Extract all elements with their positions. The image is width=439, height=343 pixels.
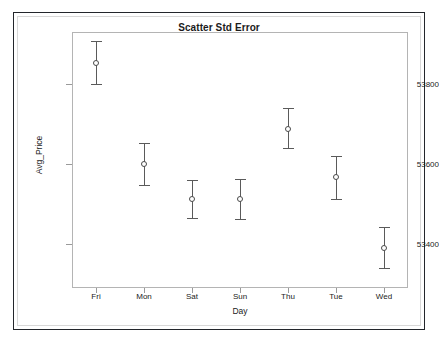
errorbar-cap-lower [187,218,198,219]
errorbar-cap-lower [235,219,246,220]
x-axis-title: Day [72,306,408,316]
errorbar-cap-lower [283,148,294,149]
y-tick-label: 53800 [417,80,439,89]
errorbar-cap-upper [187,180,198,181]
errorbar-cap-upper [331,156,342,157]
y-tick-label: 53600 [417,160,439,169]
x-tick-label: Sun [233,292,247,301]
x-tick-label: Thu [281,292,295,301]
errorbar-cap-upper [235,179,246,180]
y-tick-mark [66,164,72,165]
y-tick-mark [66,244,72,245]
x-tick-label: Mon [136,292,152,301]
scatter-point-marker[interactable] [237,196,243,202]
errorbar-cap-lower [331,199,342,200]
y-tick-mark [66,84,72,85]
plot-area [72,32,408,288]
errorbar-cap-upper [91,41,102,42]
errorbar-cap-lower [379,268,390,269]
errorbar-cap-lower [139,185,150,186]
x-tick-label: Sat [186,292,198,301]
scatter-point-marker[interactable] [141,161,147,167]
y-axis-title: Avg_Price [34,110,44,200]
x-tick-label: Tue [329,292,343,301]
scatter-point-marker[interactable] [189,196,195,202]
errorbar-cap-upper [139,143,150,144]
x-tick-label: Wed [376,292,392,301]
x-tick-label: Fri [91,292,100,301]
errorbar-cap-upper [283,108,294,109]
errorbar-cap-upper [379,227,390,228]
scatter-point-marker[interactable] [381,245,387,251]
errorbar-cap-lower [91,84,102,85]
scan-top-strip [0,0,439,11]
y-tick-label: 53400 [417,240,439,249]
